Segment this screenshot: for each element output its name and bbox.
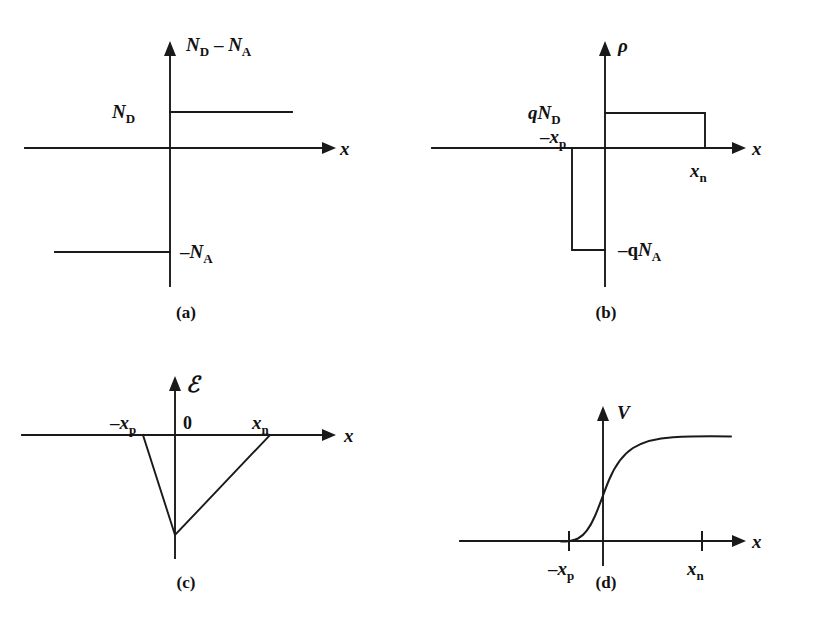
figure-pn-junction-depletion: ND – NA x ND –NA (a) ρ x qND –qNA –xp xn [0,0,814,621]
panel-c-tick-label-xn: xn [251,412,270,437]
panel-c-origin-label: 0 [183,413,192,433]
panel-b-x-axis-label: x [751,138,762,159]
panel-a: ND – NA x ND –NA (a) [25,34,350,322]
panel-d-tick-label-xn: xn [686,558,705,583]
panel-d-tick-label-xp: –xp [547,558,574,583]
panel-c-x-axis-arrowhead [322,429,336,441]
panel-a-y-axis-label: ND – NA [185,34,252,59]
panel-c-y-axis-arrowhead [169,376,181,391]
panel-b-y-axis-arrowhead [599,41,611,56]
panel-b-y-axis-label: ρ [617,35,628,56]
panel-d-x-axis-label: x [751,531,762,552]
panel-b-x-axis-arrowhead [732,142,746,154]
panel-c-x-axis-label: x [343,425,354,446]
panel-c: ℰ x –xp 0 xn (c) [22,371,354,592]
panel-c-caption: (c) [177,573,196,592]
panel-a-level-na-label: –NA [179,241,213,266]
panel-b-caption: (b) [596,303,617,322]
panel-a-x-axis-arrowhead [322,142,336,154]
panel-b-tick-label-xn: xn [689,160,708,185]
panel-b-charge-box-positive [605,113,705,148]
figure-canvas: ND – NA x ND –NA (a) ρ x qND –qNA –xp xn [0,0,814,621]
panel-b-level-qnd-label: qND [528,102,561,127]
panel-b-charge-box-negative [572,148,605,250]
panel-d: V x –xp xn (d) [460,402,762,592]
panel-d-x-axis-arrowhead [732,535,746,547]
panel-a-x-axis-label: x [339,138,350,159]
panel-a-caption: (a) [176,303,196,322]
panel-a-level-nd-label: ND [111,101,135,126]
panel-c-field-profile [143,435,270,535]
panel-d-caption: (d) [596,573,617,592]
panel-a-y-axis-arrowhead [164,41,176,56]
panel-d-y-axis-arrowhead [597,406,609,421]
panel-d-potential-curve [561,436,731,541]
panel-d-y-axis-label: V [617,402,631,423]
panel-b-level-qna-label: –qNA [617,239,662,264]
panel-b: ρ x qND –qNA –xp xn (b) [432,35,762,322]
panel-c-tick-label-xp: –xp [109,412,136,437]
panel-c-y-axis-label: ℰ [186,371,202,397]
